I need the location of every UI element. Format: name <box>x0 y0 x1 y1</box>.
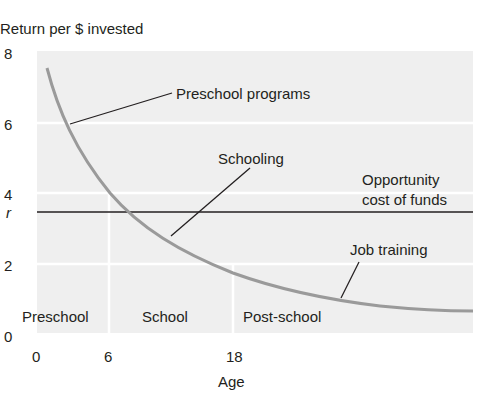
annotation-schooling: Schooling <box>218 150 284 167</box>
annotation-job-training: Job training <box>350 241 428 258</box>
region-preschool: Preschool <box>22 308 89 325</box>
y-tick-0: 0 <box>4 328 12 345</box>
x-tick-0: 0 <box>32 348 40 365</box>
y-tick-6: 6 <box>4 116 12 133</box>
chart: Return per $ invested 8 6 4 r 2 0 0 6 18… <box>0 0 495 404</box>
annotation-opportunity: Opportunity <box>362 171 440 188</box>
y-tick-4: 4 <box>4 186 12 203</box>
x-tick-6: 6 <box>104 348 112 365</box>
x-tick-18: 18 <box>226 348 243 365</box>
y-tick-r: r <box>6 204 12 221</box>
y-tick-8: 8 <box>4 45 12 62</box>
y-tick-2: 2 <box>4 257 12 274</box>
y-axis-label: Return per $ invested <box>0 20 143 37</box>
region-school: School <box>142 308 188 325</box>
annotation-preschool-programs: Preschool programs <box>176 85 310 102</box>
region-post-school: Post-school <box>243 308 321 325</box>
annotation-cost-of-funds: cost of funds <box>362 191 447 208</box>
x-axis-label: Age <box>218 373 245 390</box>
